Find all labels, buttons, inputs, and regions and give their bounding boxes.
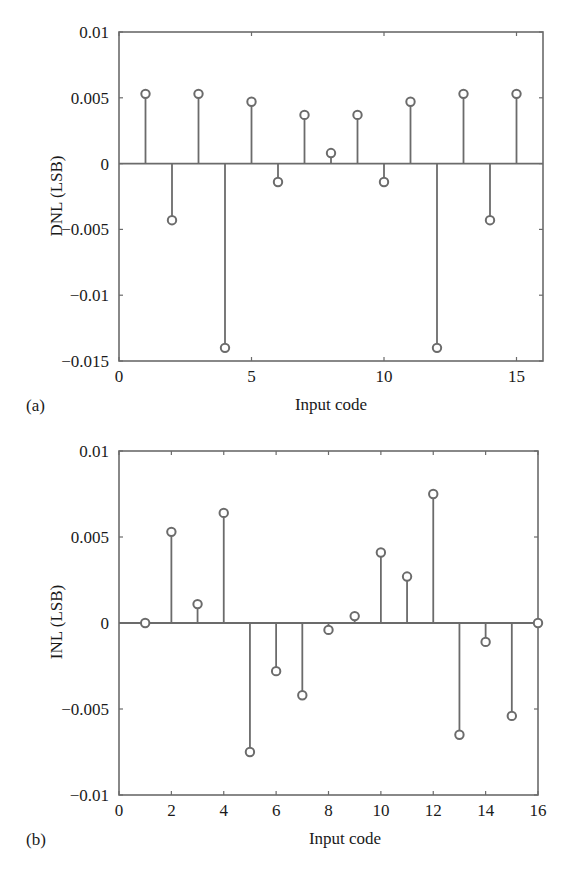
x-tick-label: 14 xyxy=(477,801,495,820)
y-tick-label: 0.005 xyxy=(71,528,109,547)
dnl-plot-area: 0510150.010.0050−0.005−0.01−0.015 xyxy=(61,23,543,386)
stem-marker xyxy=(380,178,388,186)
dnl-ylabel: DNL (LSB) xyxy=(47,155,66,236)
y-tick-label: 0.005 xyxy=(71,89,109,108)
y-tick-label: −0.005 xyxy=(61,220,109,239)
dnl-xlabel: Input code xyxy=(295,395,367,414)
stem-marker xyxy=(221,344,229,352)
dnl-chart: 0510150.010.0050−0.005−0.01−0.015 DNL (L… xyxy=(26,23,543,415)
stem-marker xyxy=(141,619,149,627)
x-tick-label: 10 xyxy=(376,367,393,386)
stem-marker xyxy=(406,98,414,106)
y-tick-label: 0 xyxy=(101,155,110,174)
inl-plot-area: 02468101214160.010.0050−0.005−0.01 xyxy=(61,442,546,820)
stem-marker xyxy=(403,572,411,580)
stem-marker xyxy=(486,216,494,224)
y-tick-label: 0 xyxy=(101,614,110,633)
x-tick-label: 0 xyxy=(115,367,124,386)
stem-marker xyxy=(508,712,516,720)
x-tick-label: 5 xyxy=(247,367,256,386)
y-tick-label: −0.01 xyxy=(70,786,109,805)
stem-marker xyxy=(324,626,332,634)
x-tick-label: 12 xyxy=(425,801,442,820)
y-tick-label: −0.005 xyxy=(61,700,109,719)
stem-marker xyxy=(512,90,520,98)
x-tick-label: 0 xyxy=(115,801,124,820)
stem-marker xyxy=(433,344,441,352)
x-tick-label: 2 xyxy=(167,801,176,820)
y-tick-label: −0.015 xyxy=(61,352,109,371)
x-tick-label: 16 xyxy=(530,801,547,820)
stem-marker xyxy=(246,748,254,756)
figure: 0510150.010.0050−0.005−0.01−0.015 DNL (L… xyxy=(0,0,573,884)
inl-chart: 02468101214160.010.0050−0.005−0.01 INL (… xyxy=(26,442,547,849)
inl-ylabel: INL (LSB) xyxy=(47,585,66,659)
stem-marker xyxy=(377,548,385,556)
stem-marker xyxy=(429,490,437,498)
axes-frame xyxy=(119,32,543,361)
x-tick-label: 15 xyxy=(508,367,525,386)
stem-marker xyxy=(300,111,308,119)
panel-label-b: (b) xyxy=(26,830,46,849)
y-tick-label: 0.01 xyxy=(79,442,109,461)
y-tick-label: −0.01 xyxy=(70,286,109,305)
stem-marker xyxy=(327,149,335,157)
stem-marker xyxy=(274,178,282,186)
stem-marker xyxy=(220,509,228,517)
y-tick-label: 0.01 xyxy=(79,23,109,42)
stem-marker xyxy=(167,528,175,536)
stem-marker xyxy=(298,691,306,699)
stem-marker xyxy=(455,731,463,739)
inl-xlabel: Input code xyxy=(309,829,381,848)
stem-marker xyxy=(247,98,255,106)
x-tick-label: 6 xyxy=(272,801,281,820)
stem-marker xyxy=(193,600,201,608)
stem-marker xyxy=(534,619,542,627)
x-tick-label: 4 xyxy=(220,801,229,820)
stem-marker xyxy=(459,90,467,98)
stem-marker xyxy=(481,638,489,646)
stem-marker xyxy=(353,111,361,119)
stem-marker xyxy=(168,216,176,224)
stem-marker xyxy=(350,612,358,620)
stem-marker xyxy=(272,667,280,675)
x-tick-label: 10 xyxy=(372,801,389,820)
stem-marker xyxy=(141,90,149,98)
panel-label-a: (a) xyxy=(26,396,45,415)
x-tick-label: 8 xyxy=(324,801,333,820)
stem-marker xyxy=(194,90,202,98)
